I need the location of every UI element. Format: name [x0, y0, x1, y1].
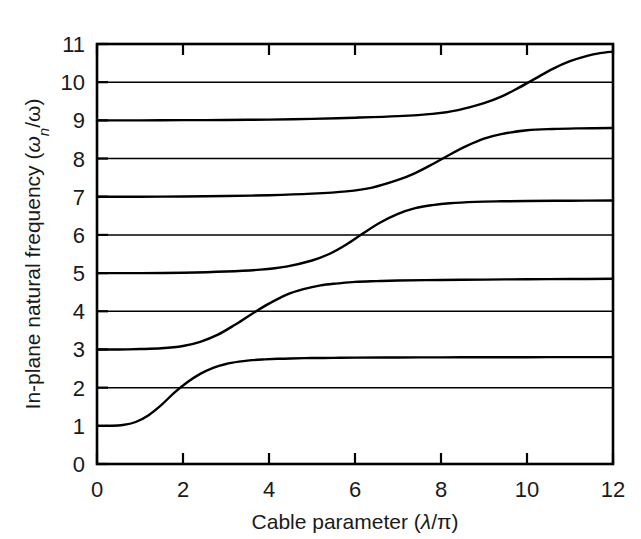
x-axis-title: Cable parameter (λ/π)	[252, 510, 459, 533]
x-axis-title-prefix: Cable parameter (	[252, 510, 421, 533]
y-tick-label-6: 6	[73, 223, 85, 248]
x-tick-label-group: 024681012	[91, 477, 625, 502]
x-tick-label-8: 8	[435, 477, 447, 502]
x-tick-label-2: 2	[177, 477, 189, 502]
x-axis-title-pi: π	[437, 510, 452, 533]
y-tick-label-group: 01234567891011	[61, 32, 85, 477]
plot-background	[97, 44, 613, 464]
x-tick-label-0: 0	[91, 477, 103, 502]
x-tick-label-10: 10	[515, 477, 539, 502]
y-tick-label-3: 3	[73, 337, 85, 362]
figure-container: 01234567891011 024681012 In-plane natura…	[0, 0, 641, 539]
svg-text:In-plane natural frequency (ωn: In-plane natural frequency (ωn/ω)	[21, 99, 52, 410]
y-tick-label-1: 1	[73, 414, 85, 439]
y-tick-label-9: 9	[73, 108, 85, 133]
y-tick-label-5: 5	[73, 261, 85, 286]
x-axis-title-lambda: λ	[420, 510, 431, 533]
x-tick-label-12: 12	[601, 477, 625, 502]
y-axis-title-prefix: In-plane natural frequency (	[21, 153, 44, 410]
y-tick-label-4: 4	[73, 299, 85, 324]
svg-text:Cable parameter (λ/π): Cable parameter (λ/π)	[252, 510, 459, 533]
y-tick-label-2: 2	[73, 376, 85, 401]
x-axis-title-suffix: )	[451, 510, 458, 533]
y-tick-label-0: 0	[73, 452, 85, 477]
y-tick-label-11: 11	[62, 32, 85, 57]
chart-plot: 01234567891011 024681012 In-plane natura…	[0, 0, 641, 539]
y-axis-title-omega-n: ω	[21, 136, 44, 152]
x-tick-label-4: 4	[263, 477, 275, 502]
y-axis-title-omega: ω	[21, 106, 44, 122]
y-tick-label-7: 7	[73, 185, 85, 210]
y-axis-title-subscript: n	[35, 128, 52, 136]
y-tick-label-10: 10	[61, 70, 85, 95]
y-axis-title-suffix: )	[21, 99, 44, 106]
y-tick-label-8: 8	[73, 147, 85, 172]
y-axis-title: In-plane natural frequency (ωn/ω)	[21, 99, 52, 410]
x-tick-label-6: 6	[349, 477, 361, 502]
